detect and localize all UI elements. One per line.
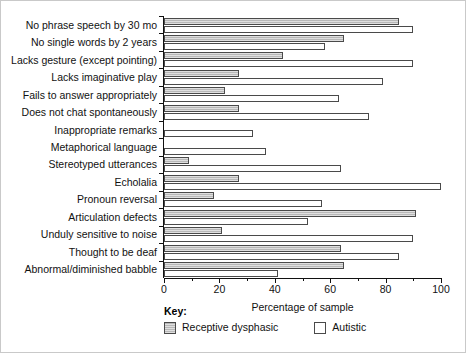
x-tick-label: 100: [432, 284, 450, 295]
category-label: Abnormal/diminished babble: [25, 264, 158, 275]
x-tick-minor: [247, 278, 248, 281]
x-tick-minor: [358, 278, 359, 281]
bar-autistic: [164, 165, 341, 172]
bar-autistic: [164, 26, 413, 33]
bar-row: Thought to be deaf: [164, 243, 441, 260]
bar-receptive-dysphasic: [164, 18, 399, 25]
category-label: Lacks gesture (except pointing): [11, 55, 157, 66]
category-label: Does not chat spontaneously: [22, 107, 157, 118]
bar-receptive-dysphasic: [164, 35, 344, 42]
bar-row: Unduly sensitive to noise: [164, 226, 441, 243]
bar-row: Inappropriate remarks: [164, 121, 441, 138]
legend-swatch-gray: [164, 322, 176, 334]
bar-autistic: [164, 78, 383, 85]
bar-row: No phrase speech by 30 mo: [164, 16, 441, 33]
bar-autistic: [164, 148, 266, 155]
bar-receptive-dysphasic: [164, 245, 341, 252]
bar-row: Does not chat spontaneously: [164, 103, 441, 120]
bar-row: Lacks imaginative play: [164, 68, 441, 85]
bar-row: Stereotyped utterances: [164, 156, 441, 173]
bar-autistic: [164, 253, 399, 260]
legend-item: Autistic: [314, 322, 366, 334]
bar-receptive-dysphasic: [164, 105, 239, 112]
legend-items: Receptive dysphasicAutistic: [164, 322, 454, 334]
bar-receptive-dysphasic: [164, 192, 214, 199]
bar-row: Abnormal/diminished babble: [164, 261, 441, 278]
chart-legend: Key: Receptive dysphasicAutistic: [164, 306, 454, 334]
x-tick-minor: [192, 278, 193, 281]
bar-receptive-dysphasic: [164, 227, 222, 234]
legend-title: Key:: [164, 306, 454, 317]
legend-label: Autistic: [332, 322, 366, 333]
bar-row: Pronoun reversal: [164, 191, 441, 208]
category-label: Metaphorical language: [51, 142, 157, 153]
category-label: Stereotyped utterances: [48, 159, 157, 170]
bar-autistic: [164, 218, 308, 225]
legend-label: Receptive dysphasic: [182, 322, 278, 333]
legend-item: Receptive dysphasic: [164, 322, 278, 334]
bar-autistic: [164, 95, 339, 102]
plot-area: No phrase speech by 30 moNo single words…: [164, 16, 441, 278]
x-tick-minor: [303, 278, 304, 281]
bar-autistic: [164, 43, 325, 50]
category-label: Inappropriate remarks: [54, 125, 157, 136]
bar-row: Lacks gesture (except pointing): [164, 51, 441, 68]
category-label: No single words by 2 years: [31, 37, 157, 48]
category-label: Lacks imaginative play: [51, 72, 157, 83]
category-label: Thought to be deaf: [69, 247, 157, 258]
bar-row: Metaphorical language: [164, 138, 441, 155]
category-label: Pronoun reversal: [77, 194, 157, 205]
bar-autistic: [164, 130, 253, 137]
category-label: Fails to answer appropriately: [23, 90, 157, 101]
bar-row: Echolalia: [164, 173, 441, 190]
bar-receptive-dysphasic: [164, 175, 239, 182]
bar-autistic: [164, 235, 413, 242]
category-label: Articulation defects: [68, 212, 157, 223]
x-tick-label: 0: [161, 284, 167, 295]
y-axis-tick: [159, 121, 164, 122]
x-tick-label: 80: [380, 284, 392, 295]
bar-receptive-dysphasic: [164, 87, 225, 94]
category-label: No phrase speech by 30 mo: [26, 20, 157, 31]
bar-autistic: [164, 60, 413, 67]
x-tick-label: 60: [324, 284, 336, 295]
bar-autistic: [164, 183, 441, 190]
category-label: Echolalia: [114, 177, 157, 188]
chart-figure: No phrase speech by 30 moNo single words…: [0, 0, 466, 353]
bar-receptive-dysphasic: [164, 52, 283, 59]
x-tick-label: 20: [214, 284, 226, 295]
bar-row: No single words by 2 years: [164, 33, 441, 50]
bar-receptive-dysphasic: [164, 210, 416, 217]
bar-row: Articulation defects: [164, 208, 441, 225]
x-tick-label: 40: [269, 284, 281, 295]
x-tick-minor: [413, 278, 414, 281]
category-label: Unduly sensitive to noise: [41, 229, 157, 240]
bar-autistic: [164, 200, 322, 207]
bar-receptive-dysphasic: [164, 157, 189, 164]
bar-autistic: [164, 113, 369, 120]
bar-autistic: [164, 270, 278, 277]
bar-receptive-dysphasic: [164, 70, 239, 77]
y-axis-tick: [159, 138, 164, 139]
bar-receptive-dysphasic: [164, 262, 344, 269]
bar-row: Fails to answer appropriately: [164, 86, 441, 103]
legend-swatch-white: [314, 322, 326, 334]
